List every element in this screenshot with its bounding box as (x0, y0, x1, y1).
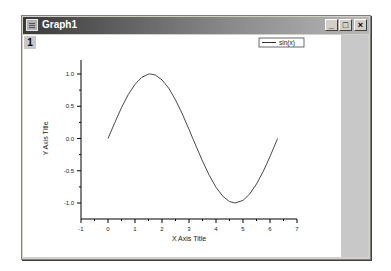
y-tick-label: 1.0 (66, 71, 75, 77)
x-tick-label: 6 (268, 226, 272, 232)
y-axis-title[interactable]: Y Axis Title (42, 121, 49, 155)
y-tick-label: 0.5 (66, 103, 75, 109)
sin-curve[interactable] (108, 74, 278, 203)
x-tick-label: 5 (241, 226, 245, 232)
close-button[interactable]: × (354, 19, 367, 31)
x-tick-label: 3 (187, 226, 191, 232)
graph-window[interactable]: Graph1 _ □ × 1 -101234567-1.0-0.50.00.51… (21, 15, 371, 260)
y-tick-label: -0.5 (64, 168, 75, 174)
x-tick-label: 7 (295, 226, 299, 232)
graph-window-icon[interactable] (26, 19, 38, 31)
y-tick-label: 0.0 (66, 136, 75, 142)
window-title: Graph1 (42, 19, 77, 30)
side-panel (341, 35, 368, 257)
x-tick-label: 2 (160, 226, 164, 232)
legend-label: sin(x) (279, 39, 295, 47)
x-tick-label: -1 (78, 226, 84, 232)
y-tick-label: -1.0 (64, 200, 75, 206)
minimize-button[interactable]: _ (325, 19, 338, 31)
graph-page[interactable]: 1 -101234567-1.0-0.50.00.51.0X Axis Titl… (23, 35, 341, 257)
title-bar[interactable]: Graph1 _ □ × (23, 17, 369, 34)
x-tick-label: 4 (214, 226, 218, 232)
x-tick-label: 0 (106, 226, 110, 232)
plot-area[interactable]: -101234567-1.0-0.50.00.51.0X Axis TitleY… (23, 35, 341, 257)
x-axis-title[interactable]: X Axis Title (172, 235, 206, 242)
x-tick-label: 1 (133, 226, 137, 232)
maximize-button[interactable]: □ (339, 19, 352, 31)
